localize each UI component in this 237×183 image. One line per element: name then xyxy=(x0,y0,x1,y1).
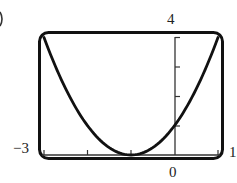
y-max-label: 4 xyxy=(167,12,175,27)
parabola-curve xyxy=(44,38,218,156)
graphing-calculator-plot xyxy=(0,0,237,183)
y-axis-ticks xyxy=(175,38,180,127)
figure-label-paren xyxy=(0,12,2,26)
origin-label: 0 xyxy=(169,165,177,180)
x-max-label: 1 xyxy=(229,145,237,160)
viewing-window-frame xyxy=(40,33,223,159)
x-min-label: −3 xyxy=(13,141,29,156)
